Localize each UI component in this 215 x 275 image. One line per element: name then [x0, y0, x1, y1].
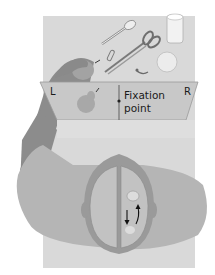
left-field-label: L: [50, 86, 56, 97]
left-ear: [81, 202, 89, 218]
ball-icon: [157, 52, 177, 72]
visual-area: [127, 191, 139, 201]
fixation-label-line1: Fixation: [124, 89, 194, 102]
fixation-label-line2: point: [124, 102, 194, 115]
motor-area: [125, 226, 135, 234]
fixation-point: [117, 99, 120, 102]
fixation-point-label: Fixation point: [124, 89, 194, 115]
split-brain-diagram: L R Fixation point: [0, 0, 215, 275]
glass-icon: [167, 14, 183, 43]
right-ear: [149, 202, 157, 218]
